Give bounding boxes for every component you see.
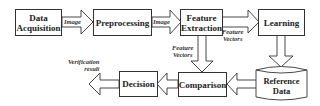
edge-label-verification-line1: Verification	[68, 58, 99, 65]
node-reference-data-line2: Data	[256, 86, 307, 96]
node-preprocessing: Preprocessing	[93, 9, 152, 36]
edge-label-image-1: Image	[64, 18, 81, 25]
edge-label-fv-down-line1: Feature	[172, 44, 193, 51]
edge-label-image-2: Image	[153, 18, 170, 25]
node-data-acquisition-line2: Acquisition	[16, 23, 60, 33]
node-reference-data: Reference Data	[256, 76, 307, 96]
node-feature-extraction: Feature Extraction	[180, 9, 223, 36]
node-feature-extraction-line1: Feature	[187, 13, 217, 23]
edge-label-verification-line2: result	[68, 65, 99, 72]
node-preprocessing-label: Preprocessing	[96, 18, 150, 28]
edge-label-fv-right-line1: Feature	[222, 28, 243, 35]
node-data-acquisition-line1: Data	[29, 13, 48, 23]
node-comparison-label: Comparison	[179, 80, 227, 90]
arrow-comparison-to-decision	[157, 73, 178, 95]
node-reference-data-line1: Reference	[256, 76, 307, 86]
node-decision-label: Decision	[122, 79, 155, 89]
arrow-learning-to-reference	[269, 35, 293, 67]
edge-label-feature-vectors-right: Feature Vectors	[222, 28, 243, 42]
edge-label-feature-vectors-down: Feature Vectors	[172, 44, 193, 58]
edge-label-fv-down-line2: Vectors	[172, 51, 193, 58]
node-feature-extraction-line2: Extraction	[181, 23, 222, 33]
arrow-reference-to-comparison	[227, 73, 257, 95]
node-decision: Decision	[119, 71, 158, 97]
arrow-decision-output	[89, 73, 119, 95]
arrow-fe-to-comparison	[191, 35, 213, 72]
node-data-acquisition: Data Acquisition	[15, 9, 62, 36]
edge-label-fv-right-line2: Vectors	[222, 35, 243, 42]
node-learning-label: Learning	[264, 18, 300, 28]
edge-label-verification-result: Verification result	[68, 58, 99, 72]
node-learning: Learning	[258, 9, 305, 36]
node-comparison: Comparison	[178, 72, 227, 97]
